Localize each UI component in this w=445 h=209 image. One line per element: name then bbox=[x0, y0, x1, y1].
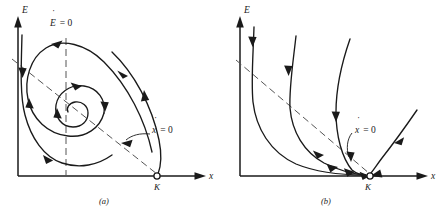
x-axis-label-b: x bbox=[430, 171, 436, 181]
equilibrium-node-b bbox=[367, 173, 373, 179]
x-dot-leader-a bbox=[121, 134, 150, 147]
x-dot-label-base-b: x= 0 bbox=[354, 125, 376, 135]
equilibrium-node-a bbox=[154, 173, 160, 179]
trajectories-a bbox=[21, 35, 161, 174]
phase-portrait-figure: E x ˙ E= 0 ˙ x= 0 K (a) bbox=[0, 0, 445, 209]
x-dot-label-base-a: x= 0 bbox=[151, 125, 173, 135]
panel-b: E x ˙ x= 0 K (b) bbox=[222, 0, 445, 209]
y-axis-label-b: E bbox=[243, 5, 250, 15]
equilibrium-label-a: K bbox=[153, 182, 161, 192]
e-dot-label-base-a: E= 0 bbox=[49, 18, 73, 28]
axes-a bbox=[14, 16, 206, 180]
x-dot-leader-b bbox=[346, 133, 354, 162]
x-dot-nullcline-label-a: ˙ x= 0 bbox=[151, 116, 173, 135]
panel-caption-a: (a) bbox=[99, 196, 109, 206]
panel-caption-b: (b) bbox=[321, 196, 331, 206]
y-axis-label-a: E bbox=[21, 5, 28, 15]
axes-b bbox=[236, 16, 428, 180]
x-dot-nullcline-label-b: ˙ x= 0 bbox=[354, 116, 376, 135]
x-axis-label-a: x bbox=[208, 171, 214, 181]
panel-a: E x ˙ E= 0 ˙ x= 0 K (a) bbox=[0, 0, 223, 209]
x-dot-nullcline-a bbox=[12, 59, 157, 174]
e-dot-nullcline-label-a: ˙ E= 0 bbox=[49, 9, 73, 28]
equilibrium-label-b: K bbox=[364, 182, 372, 192]
trajectories-b bbox=[252, 27, 417, 176]
trajectory-arrows-b bbox=[248, 37, 404, 180]
